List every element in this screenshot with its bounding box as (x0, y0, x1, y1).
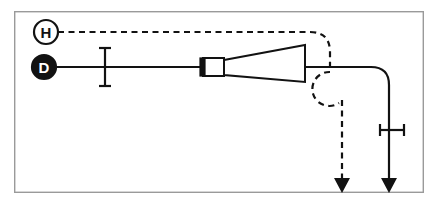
diagram-svg: H D (0, 0, 436, 210)
node-h-label: H (41, 24, 52, 41)
node-d: D (32, 55, 56, 79)
diagram-border (15, 12, 424, 193)
node-h: H (34, 20, 58, 44)
inlet-block (203, 58, 224, 76)
diagram-canvas: H D (0, 0, 436, 210)
node-d-label: D (39, 59, 50, 76)
inlet-plug (200, 58, 205, 76)
